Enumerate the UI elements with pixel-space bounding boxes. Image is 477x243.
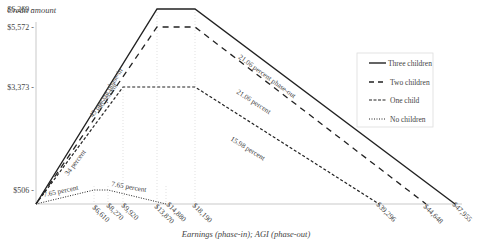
x-tick-44648: $44,648 bbox=[422, 202, 446, 226]
y-tick-506: $506 - bbox=[13, 186, 34, 195]
y-tick-5572: $5,572 - bbox=[7, 23, 34, 32]
x-tick-18190: $18,190 bbox=[191, 201, 215, 225]
eitc-chart: Credit amount $6,269 - $5,572 - $3,373 -… bbox=[0, 0, 477, 243]
annotation-none-phase-out: 7.65 percent bbox=[111, 180, 147, 194]
legend-label-two: Two children bbox=[390, 78, 430, 87]
x-axis-title: Earnings (phase-in); AGI (phase-out) bbox=[181, 229, 311, 239]
series-one-child bbox=[36, 87, 379, 204]
annotation-two-phase-out: 21.06 percent bbox=[235, 88, 272, 116]
y-tick-6269: $6,269 - bbox=[7, 5, 34, 14]
legend-label-one: One child bbox=[390, 96, 420, 105]
legend: Three children Two children One child No… bbox=[357, 53, 433, 127]
annotation-none-phase-in: 7.65 percent bbox=[43, 184, 79, 199]
y-tick-3373: $3,373 - bbox=[7, 83, 34, 92]
legend-label-three: Three children bbox=[388, 59, 432, 68]
legend-label-none: No children bbox=[390, 115, 426, 124]
annotation-one-phase-out: 15.98 percent bbox=[229, 135, 266, 163]
